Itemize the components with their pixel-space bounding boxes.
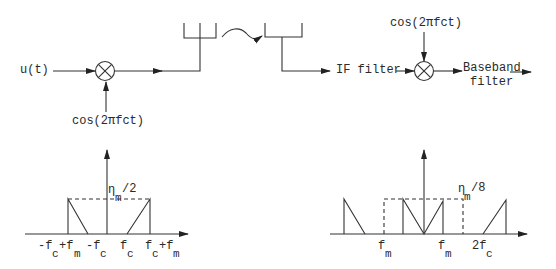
right-tick-3: 2f (472, 240, 486, 252)
left-tick-2-sub: c (100, 249, 107, 260)
right-amplitude-rest: /8 (471, 182, 485, 194)
left-amplitude-sub: m (115, 193, 122, 204)
if-filter-label: IF filter (336, 64, 401, 76)
left-amplitude-rest: /2 (122, 183, 136, 195)
tx-feed-line (160, 23, 200, 71)
rx-carrier-label: cos(2πfct) (390, 17, 462, 29)
left-tick-1-sub: c (52, 249, 59, 260)
baseband-filter-label-line2: filter (470, 76, 513, 88)
right-tick-2-sub: m (445, 249, 452, 260)
left-tick-4-sub: c (152, 249, 159, 260)
rx-feed-line (282, 37, 330, 71)
rx-mixer-icon (415, 62, 434, 81)
left-tick-3-sub: c (127, 249, 134, 260)
left-tick-2: -f (86, 240, 100, 252)
rx-antenna-icon (265, 23, 302, 37)
left-tick-1-extra: +f (59, 240, 73, 252)
spectrum-left-plot (25, 150, 188, 234)
am-system-diagram (0, 0, 556, 269)
left-tick-4-extra: +f (159, 240, 173, 252)
right-tick-1-sub: m (385, 249, 392, 260)
baseband-filter-label-line1: Baseband (463, 62, 521, 74)
right-amplitude-sub: m (464, 192, 471, 203)
channel-wave-icon (222, 29, 262, 39)
left-tick-4-extra-sub: m (173, 249, 180, 260)
tx-mixer-icon (96, 62, 115, 81)
spectrum-right-plot (330, 150, 527, 234)
left-tick-1: -f (38, 240, 52, 252)
right-tick-3-sub: c (486, 249, 493, 260)
left-tick-1-extra-sub: m (74, 249, 81, 260)
input-signal-label: u(t) (20, 64, 49, 76)
tx-carrier-label: cos(2πfct) (72, 115, 144, 127)
